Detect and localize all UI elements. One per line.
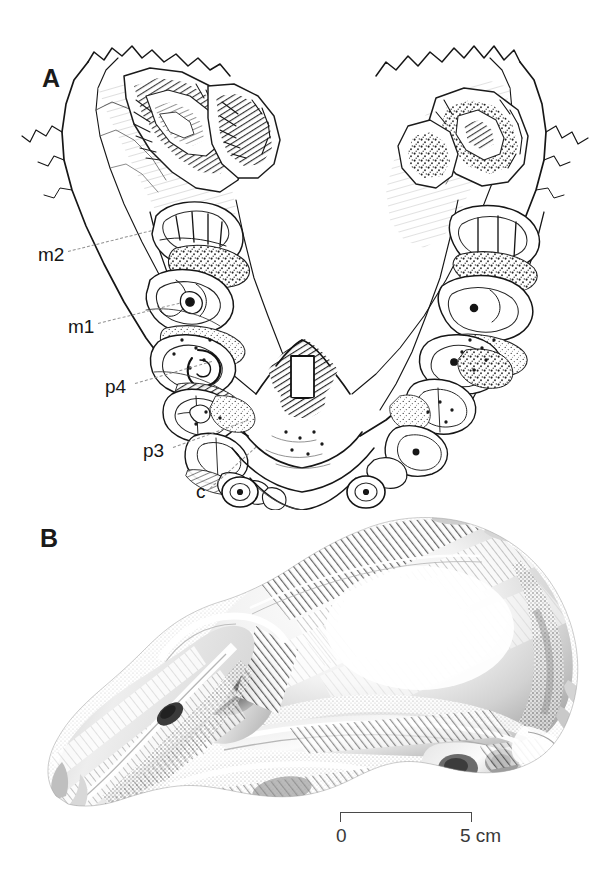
panel-b-label: B — [40, 526, 58, 551]
mandible-illustration — [0, 40, 606, 510]
scale-bar-min-label: 0 — [336, 826, 347, 845]
tooth-label-p3: p3 — [143, 441, 164, 460]
scale-bar-rule — [340, 812, 472, 822]
figure-plate: A B m2m1p4p3c 0 5 cm — [0, 0, 606, 880]
skull-illustration — [20, 500, 606, 830]
tooth-label-c: c — [196, 482, 206, 501]
panel-a-label: A — [42, 66, 60, 91]
scale-bar-max-label: 5 cm — [460, 826, 501, 845]
tooth-label-m2: m2 — [38, 245, 64, 264]
tooth-label-p4: p4 — [105, 377, 126, 396]
tooth-label-m1: m1 — [68, 317, 94, 336]
scale-bar: 0 5 cm — [336, 806, 516, 852]
